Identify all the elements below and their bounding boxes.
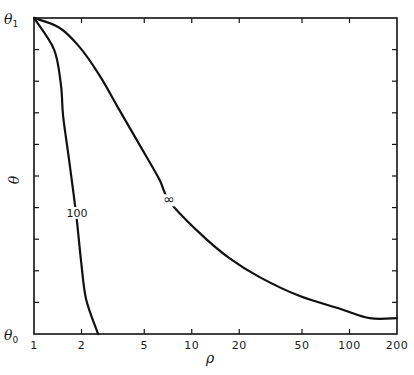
curve-label-100: 100: [67, 207, 88, 220]
plot-frame: [34, 18, 397, 334]
plot-border: [34, 18, 397, 334]
x-tick-label: 5: [141, 339, 149, 352]
x-tick-label: 20: [232, 339, 247, 352]
curve-infinity: [34, 18, 397, 319]
x-tick-label: 10: [184, 339, 199, 352]
x-tick-label: 200: [386, 339, 409, 352]
x-tick-label: 1: [30, 339, 38, 352]
curve-label-infinity: ∞: [163, 191, 175, 207]
chart: 125102050100200 θ1 θ0 θ ρ 100 ∞: [0, 0, 414, 375]
curves: [34, 18, 397, 334]
y-tick-label-theta1: θ1: [4, 11, 18, 29]
x-tick-label: 50: [295, 339, 310, 352]
y-axis-label: θ: [6, 175, 22, 184]
x-tick-label: 2: [78, 339, 86, 352]
y-axis-ticks: [34, 50, 397, 303]
y-tick-label-theta0: θ0: [4, 327, 18, 345]
x-tick-label: 100: [338, 339, 361, 352]
curve-100: [34, 18, 98, 334]
x-axis-label: ρ: [205, 350, 215, 366]
